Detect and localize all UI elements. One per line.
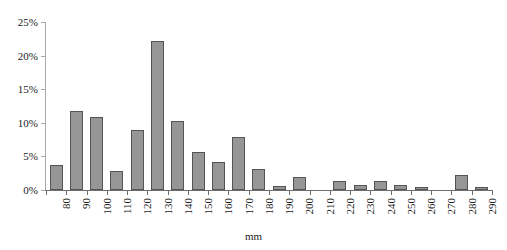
- x-axis-tick-mark: [330, 191, 331, 195]
- histogram-chart: 0%5%10%15%20%25% 80901001101201301401501…: [0, 0, 507, 250]
- y-axis-tick-label: 20%: [18, 50, 38, 61]
- x-axis-tick-label: 260: [426, 198, 437, 215]
- x-axis-tick-mark: [147, 191, 148, 195]
- x-axis-tick-mark: [228, 191, 229, 195]
- x-axis-tick-label: 90: [81, 198, 92, 209]
- bar: [110, 171, 123, 190]
- x-axis-tick-mark: [208, 191, 209, 195]
- x-axis-tick-label: 100: [102, 198, 113, 215]
- x-axis-tick-label: 280: [467, 198, 478, 215]
- x-axis-tick-mark: [269, 191, 270, 195]
- x-axis-tick-mark: [431, 191, 432, 195]
- x-axis-tick-mark: [46, 191, 47, 195]
- y-axis-tick-label: 15%: [18, 84, 38, 95]
- x-axis-tick-label: 170: [244, 198, 255, 215]
- bar: [131, 130, 144, 190]
- x-axis-tick-label: 150: [203, 198, 214, 215]
- bar: [90, 117, 103, 190]
- bar: [455, 175, 468, 190]
- x-axis-tick-label: 200: [304, 198, 315, 215]
- x-axis-tick-mark: [310, 191, 311, 195]
- x-axis-tick-mark: [168, 191, 169, 195]
- x-axis-tick-label: 240: [386, 198, 397, 215]
- y-axis-tick-mark: [41, 89, 45, 90]
- y-axis-tick-mark: [41, 190, 45, 191]
- bar: [171, 121, 184, 190]
- bar: [252, 169, 265, 190]
- bar: [374, 181, 387, 190]
- x-axis-tick-label: 80: [61, 198, 72, 209]
- y-axis-tick-label: 5%: [23, 151, 38, 162]
- y-axis-tick-mark: [41, 56, 45, 57]
- x-axis-tick-mark: [87, 191, 88, 195]
- x-axis-tick-label: 290: [487, 198, 498, 215]
- y-axis-tick-mark: [41, 22, 45, 23]
- x-axis-tick-mark: [391, 191, 392, 195]
- x-axis-tick-mark: [411, 191, 412, 195]
- x-axis-tick-label: 140: [183, 198, 194, 215]
- x-axis-tick-mark: [249, 191, 250, 195]
- x-axis-tick-mark: [350, 191, 351, 195]
- x-axis-tick-label: 220: [345, 198, 356, 215]
- x-axis-tick-mark: [289, 191, 290, 195]
- y-axis: 0%5%10%15%20%25%: [0, 0, 42, 250]
- x-axis-tick-label: 190: [284, 198, 295, 215]
- bar: [151, 41, 164, 190]
- x-axis-tick-mark: [492, 191, 493, 195]
- bar: [70, 111, 83, 190]
- bar: [333, 181, 346, 190]
- x-axis-tick-label: 130: [163, 198, 174, 215]
- x-axis-tick-mark: [127, 191, 128, 195]
- bar: [293, 177, 306, 190]
- x-axis-tick-label: 180: [264, 198, 275, 215]
- x-axis-tick-label: 210: [325, 198, 336, 215]
- x-axis-tick-mark: [472, 191, 473, 195]
- x-axis-tick-label: 230: [365, 198, 376, 215]
- x-axis-tick-label: 160: [223, 198, 234, 215]
- y-axis-tick-mark: [41, 123, 45, 124]
- x-axis-tick-label: 110: [122, 198, 133, 214]
- bar: [232, 137, 245, 190]
- x-axis-tick-mark: [66, 191, 67, 195]
- bar: [192, 152, 205, 190]
- bar: [212, 162, 225, 190]
- x-axis-tick-mark: [188, 191, 189, 195]
- x-axis-tick-label: 120: [142, 198, 153, 215]
- y-axis-tick-label: 25%: [18, 17, 38, 28]
- x-axis-title: mm: [0, 230, 507, 242]
- x-axis-tick-label: 250: [406, 198, 417, 215]
- bars-layer: [46, 22, 492, 190]
- bar: [50, 165, 63, 190]
- x-axis-tick-mark: [107, 191, 108, 195]
- x-axis-tick-label: 270: [446, 198, 457, 215]
- x-axis-tick-mark: [370, 191, 371, 195]
- y-axis-tick-label: 10%: [18, 117, 38, 128]
- y-axis-tick-mark: [41, 156, 45, 157]
- y-axis-tick-label: 0%: [23, 185, 38, 196]
- x-axis-tick-mark: [451, 191, 452, 195]
- plot-area: [46, 22, 492, 190]
